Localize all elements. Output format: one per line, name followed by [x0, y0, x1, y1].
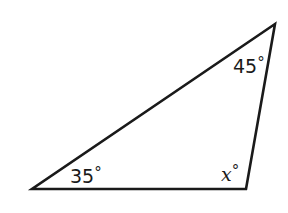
triangle-diagram: 45° 35° x° — [0, 0, 288, 213]
